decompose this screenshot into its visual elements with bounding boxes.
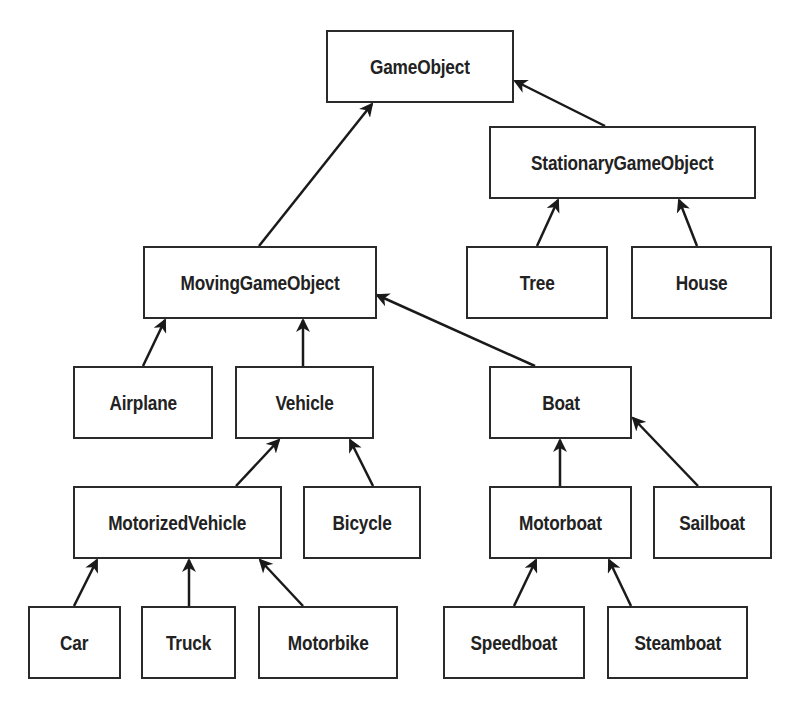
inheritance-arrow-movinggameobject-to-gameobject xyxy=(259,104,372,246)
node-boat: Boat xyxy=(489,366,632,439)
node-car: Car xyxy=(28,606,121,679)
node-label: Steamboat xyxy=(634,631,721,655)
inheritance-arrow-tree-to-stationarygameobject xyxy=(537,200,558,246)
node-label: Motorboat xyxy=(519,511,602,535)
node-sailboat: Sailboat xyxy=(653,486,772,559)
node-label: Motorbike xyxy=(288,631,369,655)
node-label: Bicycle xyxy=(332,511,391,535)
inheritance-edges xyxy=(0,0,799,708)
node-label: Sailboat xyxy=(680,511,746,535)
inheritance-arrow-stationarygameobject-to-gameobject xyxy=(515,81,605,126)
node-motorboat: Motorboat xyxy=(489,486,632,559)
node-house: House xyxy=(631,246,772,319)
node-label: MovingGameObject xyxy=(180,271,339,295)
inheritance-arrow-steamboat-to-motorboat xyxy=(609,560,631,606)
node-label: Truck xyxy=(166,631,211,655)
node-speedboat: Speedboat xyxy=(443,606,585,679)
node-label: Airplane xyxy=(109,391,177,415)
node-steamboat: Steamboat xyxy=(607,606,748,679)
inheritance-arrow-car-to-motorizedvehicle xyxy=(74,560,97,606)
inheritance-arrow-motorizedvehicle-to-vehicle xyxy=(236,440,279,486)
node-label: StationaryGameObject xyxy=(531,151,713,175)
node-label: House xyxy=(676,271,728,295)
inheritance-arrow-motorbike-to-motorizedvehicle xyxy=(260,560,303,606)
node-truck: Truck xyxy=(141,606,236,679)
inheritance-arrow-bicycle-to-vehicle xyxy=(350,440,373,486)
node-label: GameObject xyxy=(370,55,470,79)
class-hierarchy-diagram: GameObject StationaryGameObject Tree Hou… xyxy=(0,0,799,708)
node-label: Boat xyxy=(542,391,580,415)
node-label: Tree xyxy=(520,271,555,295)
inheritance-arrow-sailboat-to-boat xyxy=(633,418,698,486)
node-motorizedvehicle: MotorizedVehicle xyxy=(73,486,282,559)
node-label: Car xyxy=(60,631,88,655)
node-label: MotorizedVehicle xyxy=(108,511,246,535)
node-label: Vehicle xyxy=(275,391,333,415)
inheritance-arrow-airplane-to-movinggameobject xyxy=(143,320,165,366)
node-bicycle: Bicycle xyxy=(303,486,421,559)
node-label: Speedboat xyxy=(471,631,558,655)
node-tree: Tree xyxy=(466,246,608,319)
node-stationarygameobject: StationaryGameObject xyxy=(489,126,756,199)
node-gameobject: GameObject xyxy=(326,30,514,103)
node-vehicle: Vehicle xyxy=(235,366,374,439)
inheritance-arrow-speedboat-to-motorboat xyxy=(514,560,536,606)
node-movinggameobject: MovingGameObject xyxy=(143,246,377,319)
node-motorbike: Motorbike xyxy=(258,606,398,679)
node-airplane: Airplane xyxy=(73,366,213,439)
inheritance-arrow-house-to-stationarygameobject xyxy=(679,200,697,246)
